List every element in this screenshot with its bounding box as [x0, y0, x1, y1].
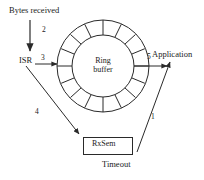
- step-label-1: 1: [151, 113, 155, 121]
- step-label-2: 2: [42, 26, 46, 34]
- arrow-rxsem-to-application: [137, 62, 170, 152]
- label-ring-buffer-line1: Ring: [80, 56, 126, 65]
- label-rxsem: RxSem: [92, 140, 116, 148]
- step-label-3: 3: [41, 54, 45, 62]
- step-label-5: 5: [147, 53, 151, 61]
- label-application: Application: [152, 50, 192, 59]
- step-label-4: 4: [35, 108, 39, 116]
- label-timeout: Timeout: [102, 160, 131, 169]
- ring-buffer-diagram: Bytes received ISR Application Ring buff…: [0, 0, 204, 180]
- label-isr: ISR: [19, 56, 32, 65]
- label-ring-buffer: Ring buffer: [80, 56, 126, 74]
- label-bytes-received: Bytes received: [9, 6, 59, 15]
- arrow-isr-to-rxsem: [26, 66, 79, 134]
- label-ring-buffer-line2: buffer: [80, 65, 126, 74]
